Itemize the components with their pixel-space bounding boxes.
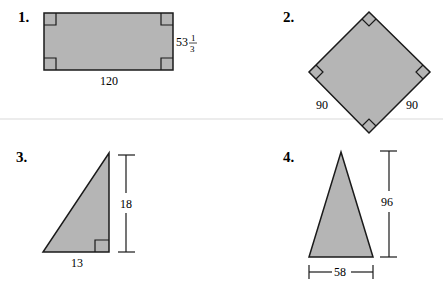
square-shape (309, 12, 430, 133)
square-left-side-label: 90 (316, 98, 328, 112)
triangle-base-label: 58 (334, 265, 346, 279)
rectangle-width-label: 120 (100, 74, 118, 88)
triangle-shape (309, 152, 373, 257)
right-triangle-shape (43, 153, 109, 252)
rectangle-height-whole: 53 (176, 35, 188, 49)
geometry-figures-diagram: 1. 120 53 1 3 2. 90 90 3. 13 (0, 0, 443, 292)
figure-3-number: 3. (16, 149, 28, 165)
figure-1-number: 1. (18, 9, 30, 25)
figure-2-number: 2. (283, 9, 295, 25)
figure-4-triangle: 4. 96 58 (283, 149, 397, 279)
triangle-height-label: 18 (120, 197, 132, 211)
rectangle-shape (44, 13, 173, 70)
figure-1-rectangle: 1. 120 53 1 3 (18, 9, 197, 88)
triangle-height-label: 96 (381, 195, 393, 209)
figure-2-square: 2. 90 90 (283, 9, 430, 133)
rectangle-height-denominator: 3 (190, 44, 195, 54)
figure-4-number: 4. (283, 149, 295, 165)
rectangle-height-numerator: 1 (191, 33, 196, 43)
figure-3-right-triangle: 3. 13 18 (16, 149, 135, 270)
square-right-side-label: 90 (406, 98, 418, 112)
triangle-base-label: 13 (71, 256, 83, 270)
